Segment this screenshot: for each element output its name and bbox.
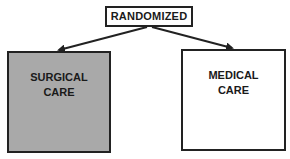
medical-care-node: MEDICAL CARE <box>181 49 286 151</box>
randomized-label: RANDOMIZED <box>111 10 188 22</box>
medical-care-label-line2: CARE <box>183 83 284 98</box>
surgical-care-label: SURGICAL CARE <box>9 70 109 100</box>
arrow-to-surgical-care <box>59 27 147 50</box>
surgical-care-node: SURGICAL CARE <box>7 51 111 153</box>
randomized-node: RANDOMIZED <box>105 6 193 27</box>
medical-care-label-line1: MEDICAL <box>183 68 284 83</box>
surgical-care-label-line2: CARE <box>9 85 109 100</box>
surgical-care-label-line1: SURGICAL <box>9 70 109 85</box>
medical-care-label: MEDICAL CARE <box>183 68 284 98</box>
arrow-to-medical-care <box>152 27 232 48</box>
